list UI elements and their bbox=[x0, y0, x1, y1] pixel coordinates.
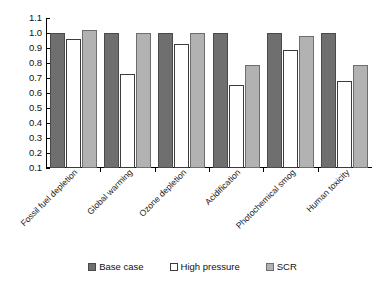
bar-base bbox=[158, 33, 173, 168]
bar-group bbox=[318, 18, 372, 168]
bar-high bbox=[66, 39, 81, 168]
y-tick-mark bbox=[46, 48, 50, 49]
bar-scr bbox=[136, 33, 151, 168]
bar-base bbox=[213, 33, 228, 168]
legend-item-base-case[interactable]: Base case bbox=[88, 262, 143, 272]
bar-high bbox=[120, 74, 135, 169]
bar-chart: 1.11.00.90.80.70.60.50.40.30.20.1 Fossil… bbox=[0, 0, 385, 298]
category-labels: Fossil fuel depletionGlobal warmingOzone… bbox=[46, 168, 372, 254]
y-tick-mark bbox=[46, 63, 50, 64]
bar-group bbox=[263, 18, 317, 168]
high-pressure-swatch bbox=[170, 263, 178, 271]
legend-label: High pressure bbox=[181, 262, 240, 272]
bar-high bbox=[229, 85, 244, 168]
bar-base bbox=[50, 33, 65, 168]
y-tick-mark bbox=[46, 138, 50, 139]
y-tick-label: 0.2 bbox=[29, 148, 46, 158]
y-tick-label: 0.8 bbox=[29, 58, 46, 68]
y-tick-mark bbox=[46, 18, 50, 19]
bar-scr bbox=[353, 65, 368, 169]
bar-high bbox=[174, 44, 189, 169]
bar-group bbox=[155, 18, 209, 168]
y-tick-label: 0.1 bbox=[29, 163, 46, 173]
y-tick-mark bbox=[46, 108, 50, 109]
y-tick-mark bbox=[46, 78, 50, 79]
bar-scr bbox=[190, 33, 205, 168]
legend-item-scr[interactable]: SCR bbox=[266, 262, 297, 272]
y-tick-label: 1.0 bbox=[29, 28, 46, 38]
y-tick-label: 0.7 bbox=[29, 73, 46, 83]
plot-area: 1.11.00.90.80.70.60.50.40.30.20.1 bbox=[46, 18, 372, 168]
bar-group bbox=[209, 18, 263, 168]
chart-legend: Base caseHigh pressureSCR bbox=[0, 262, 385, 272]
bar-scr bbox=[82, 30, 97, 168]
scr-swatch bbox=[266, 263, 274, 271]
y-tick-label: 1.1 bbox=[29, 13, 46, 23]
bar-groups bbox=[46, 18, 372, 168]
bar-high bbox=[337, 81, 352, 168]
base-case-swatch bbox=[88, 263, 96, 271]
bar-base bbox=[104, 33, 119, 168]
bar-group bbox=[46, 18, 100, 168]
bar-base bbox=[321, 33, 336, 168]
bar-high bbox=[283, 50, 298, 168]
y-tick-label: 0.6 bbox=[29, 88, 46, 98]
y-tick-label: 0.4 bbox=[29, 118, 46, 128]
bar-scr bbox=[245, 65, 260, 169]
y-tick-mark bbox=[46, 93, 50, 94]
bar-base bbox=[267, 33, 282, 168]
legend-item-high-pressure[interactable]: High pressure bbox=[170, 262, 240, 272]
y-tick-mark bbox=[46, 153, 50, 154]
y-tick-label: 0.9 bbox=[29, 43, 46, 53]
y-tick-mark bbox=[46, 123, 50, 124]
y-tick-label: 0.3 bbox=[29, 133, 46, 143]
y-tick-mark bbox=[46, 33, 50, 34]
y-tick-label: 0.5 bbox=[29, 103, 46, 113]
legend-label: Base case bbox=[99, 262, 143, 272]
bar-scr bbox=[299, 36, 314, 168]
legend-label: SCR bbox=[277, 262, 297, 272]
bar-group bbox=[100, 18, 154, 168]
